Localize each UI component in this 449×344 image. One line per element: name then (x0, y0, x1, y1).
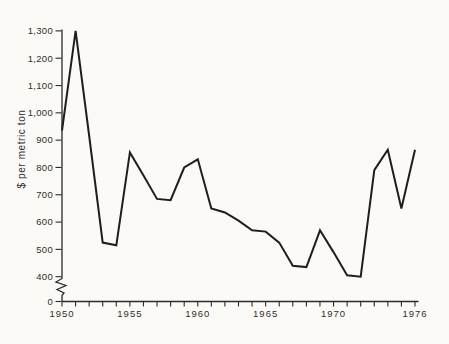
commodity-price-chart: $ per metric ton 4005006007008009001,000… (0, 0, 449, 344)
y-tick-label: 400 (36, 271, 53, 282)
y-tick-label: 900 (36, 134, 53, 145)
y-tick-label: 1,100 (28, 80, 53, 91)
x-tick-label: 1976 (402, 308, 427, 319)
y-tick-label: 1,300 (28, 25, 53, 36)
y-tick-label: 1,000 (28, 107, 53, 118)
price-line-chart-svg: 4005006007008009001,0001,1001,2001,30001… (0, 0, 449, 344)
y-axis-title: $ per metric ton (16, 109, 27, 188)
x-tick-label: 1950 (49, 308, 74, 319)
y-tick-label: 600 (36, 216, 53, 227)
y-tick-label: 1,200 (28, 53, 53, 64)
y-tick-label: 800 (36, 162, 53, 173)
y-axis (56, 30, 66, 302)
y-tick-label: 700 (36, 189, 53, 200)
price-series-line (62, 31, 415, 277)
x-tick-label: 1970 (321, 308, 346, 319)
x-tick-label: 1965 (253, 308, 278, 319)
x-tick-label: 1955 (117, 308, 142, 319)
origin-tick-label: 0 (47, 296, 53, 307)
y-tick-label: 500 (36, 244, 53, 255)
x-tick-label: 1960 (185, 308, 210, 319)
